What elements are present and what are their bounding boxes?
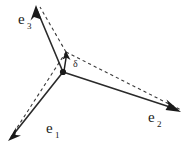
vector-diagram-canvas: e 3 e 1 e 2 δ	[0, 0, 195, 146]
origin-node	[60, 69, 66, 75]
vector-line-e1	[13, 72, 63, 135]
delta-label: δ	[73, 58, 78, 69]
vector-line-e2	[63, 72, 176, 109]
vector-label-e2: e	[148, 109, 155, 125]
arrowhead-e1	[8, 128, 21, 142]
delta-arrow-group	[63, 51, 71, 71]
vector-diagram-figure: e 3 e 1 e 2 δ	[0, 0, 195, 146]
dashed-line-e1	[11, 52, 66, 137]
dashed-line-e3	[40, 7, 66, 52]
arrowhead-group	[8, 5, 181, 141]
vector-label-e3: e	[18, 11, 25, 27]
vector-subscript-e3: 3	[27, 21, 32, 31]
dashed-line-e2	[66, 52, 181, 110]
vector-subscript-e1: 1	[55, 130, 60, 140]
vector-subscript-e2: 2	[157, 119, 162, 129]
vector-label-e1: e	[46, 120, 53, 136]
label-group: e 3 e 1 e 2 δ	[18, 11, 162, 140]
dashed-frame-group	[11, 7, 181, 137]
